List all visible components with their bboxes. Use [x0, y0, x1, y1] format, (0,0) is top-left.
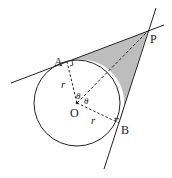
radius-OB [77, 103, 119, 123]
shaded-region [67, 31, 148, 123]
label-theta-1: θ [76, 91, 81, 101]
label-r-OB: r [91, 114, 96, 126]
tangent-circle-diagram: A P B O r r θ θ [0, 0, 172, 178]
label-theta-2: θ [84, 96, 89, 106]
label-O: O [70, 106, 79, 120]
tangent-line-B [104, 8, 156, 169]
label-P: P [150, 32, 157, 46]
label-B: B [121, 123, 129, 137]
right-angle-A [70, 61, 73, 66]
center-point [76, 102, 79, 105]
label-A: A [54, 55, 63, 69]
label-r-OA: r [61, 78, 66, 90]
